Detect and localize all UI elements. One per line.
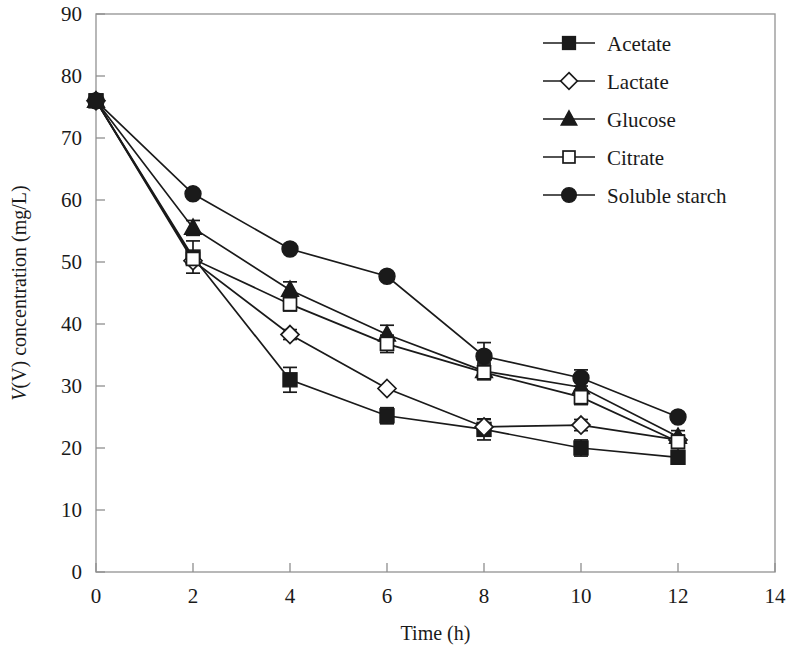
chart-legend: AcetateLactateGlucoseCitrateSoluble star…: [543, 32, 727, 208]
x-tick-label: 4: [285, 584, 296, 608]
y-tick-label: 50: [61, 250, 82, 274]
marker-open-diamond: [561, 73, 578, 90]
chart-figure: 02468101214 0102030405060708090 AcetateL…: [0, 0, 794, 649]
y-tick-label: 90: [61, 2, 82, 26]
axis-ticks: [96, 14, 775, 572]
marker-open-diamond: [378, 379, 396, 397]
marker-filled-triangle: [561, 111, 577, 125]
marker-filled-circle: [282, 241, 298, 257]
marker-filled-circle: [670, 409, 686, 425]
y-axis-title: V(V) concentration (mg/L): [8, 185, 31, 400]
marker-filled-circle: [573, 370, 589, 386]
marker-filled-square: [283, 373, 297, 387]
y-tick-label: 70: [61, 126, 82, 150]
legend-item-citrate: Citrate: [543, 146, 664, 170]
x-axis-title: Time (h): [401, 622, 471, 645]
legend-label: Glucose: [607, 108, 676, 132]
legend-item-soluble-starch: Soluble starch: [543, 184, 727, 208]
y-tick-label: 20: [61, 436, 82, 460]
marker-open-diamond: [281, 326, 299, 344]
x-tick-label: 12: [668, 584, 689, 608]
marker-open-square: [672, 435, 685, 448]
x-tick-label: 0: [91, 584, 102, 608]
y-tick-label: 60: [61, 188, 82, 212]
y-tick-label: 80: [61, 64, 82, 88]
line-chart: 02468101214 0102030405060708090 AcetateL…: [0, 0, 794, 649]
marker-open-square: [187, 252, 200, 265]
legend-label: Soluble starch: [607, 184, 727, 208]
x-tick-label: 2: [188, 584, 199, 608]
legend-label: Acetate: [607, 32, 671, 56]
x-tick-labels: 02468101214: [91, 584, 786, 608]
marker-open-square: [284, 298, 297, 311]
plot-area-border: [96, 14, 775, 572]
marker-open-square: [575, 391, 588, 404]
legend-label: Citrate: [607, 146, 664, 170]
series-markers: [87, 92, 687, 465]
x-tick-label: 14: [765, 584, 787, 608]
marker-filled-square: [574, 441, 588, 455]
y-tick-label: 40: [61, 312, 82, 336]
marker-open-square: [381, 337, 394, 350]
y-tick-label: 30: [61, 374, 82, 398]
x-tick-label: 8: [479, 584, 490, 608]
marker-open-square: [563, 151, 575, 163]
y-tick-label: 10: [61, 498, 82, 522]
data-series-group: [87, 92, 687, 465]
marker-filled-square: [380, 409, 394, 423]
marker-filled-circle: [185, 186, 201, 202]
x-tick-label: 6: [382, 584, 393, 608]
marker-filled-circle: [476, 348, 492, 364]
legend-item-lactate: Lactate: [543, 70, 669, 94]
y-tick-label: 0: [72, 560, 83, 584]
marker-filled-triangle: [282, 281, 299, 297]
marker-filled-square: [563, 37, 576, 50]
y-tick-labels: 0102030405060708090: [61, 2, 82, 584]
marker-filled-circle: [562, 188, 577, 203]
legend-label: Lactate: [607, 70, 669, 94]
marker-filled-square: [671, 450, 685, 464]
legend-item-acetate: Acetate: [543, 32, 671, 56]
marker-open-square: [478, 366, 491, 379]
series-line-soluble-starch: [96, 101, 678, 417]
legend-item-glucose: Glucose: [543, 108, 676, 132]
marker-filled-circle: [379, 268, 395, 284]
plot-frame: [96, 14, 775, 572]
x-tick-label: 10: [571, 584, 592, 608]
series-points-soluble-starch: [88, 93, 686, 425]
marker-filled-circle: [88, 93, 104, 109]
